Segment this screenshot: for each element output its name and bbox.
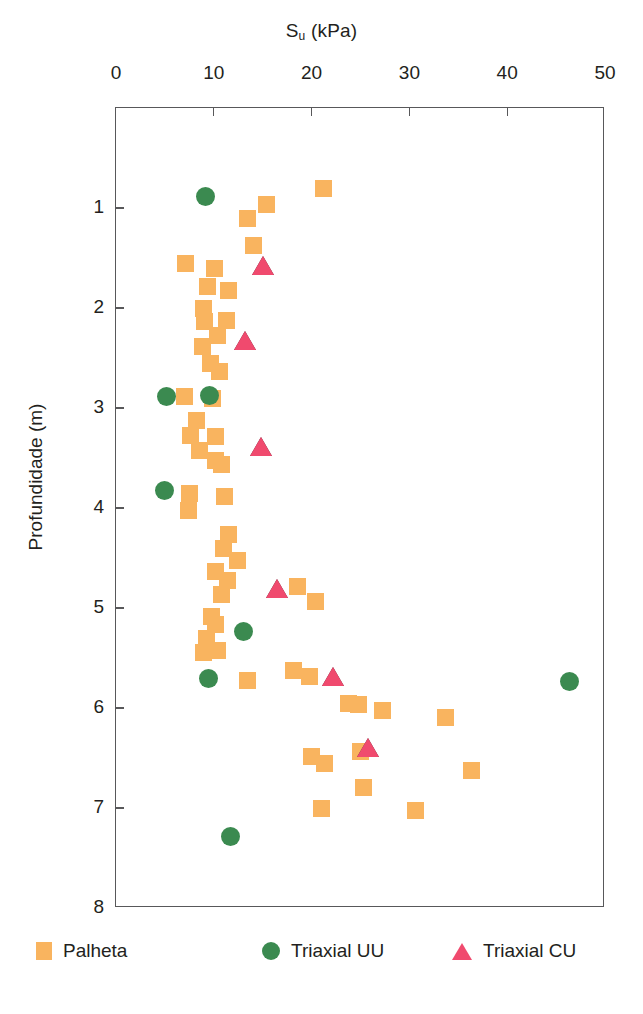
data-point <box>200 386 219 405</box>
data-point <box>301 668 318 685</box>
data-point <box>350 696 367 713</box>
legend-label-palheta: Palheta <box>63 940 127 962</box>
data-point <box>355 779 372 796</box>
data-point <box>322 667 344 686</box>
data-point <box>239 672 256 689</box>
data-point <box>176 388 193 405</box>
x-tick-label-10: 10 <box>184 62 244 84</box>
triangle-marker-icon <box>452 943 472 960</box>
x-tick-label-20: 20 <box>282 62 342 84</box>
data-point <box>155 481 174 500</box>
plot-frame: 01020304050 12345678 <box>115 107 604 907</box>
legend-item-palheta[interactable]: Palheta <box>36 940 127 962</box>
data-point <box>209 642 226 659</box>
data-point <box>285 662 302 679</box>
x-axis-title-base: S <box>286 20 299 41</box>
data-point <box>221 827 240 846</box>
x-tick-10 <box>213 107 214 116</box>
data-point <box>229 552 246 569</box>
data-point <box>216 488 233 505</box>
data-point <box>437 709 454 726</box>
data-point <box>239 210 256 227</box>
square-marker-icon <box>36 942 52 960</box>
y-tick-label-3: 3 <box>64 396 104 418</box>
data-point <box>199 278 216 295</box>
x-tick-20 <box>311 107 312 116</box>
plot-area <box>116 108 603 906</box>
y-tick-3 <box>115 407 124 408</box>
x-tick-40 <box>507 107 508 116</box>
legend-item-triaxial-cu[interactable]: Triaxial CU <box>452 940 576 962</box>
data-point <box>307 593 324 610</box>
y-tick-label-6: 6 <box>64 696 104 718</box>
scatter-chart-figure: Su (kPa) Profundidade (m) 01020304050 12… <box>0 0 643 1014</box>
data-point <box>289 578 306 595</box>
data-point <box>252 256 274 275</box>
y-tick-label-8: 8 <box>64 896 104 918</box>
data-point <box>245 237 262 254</box>
legend-item-triaxial-uu[interactable]: Triaxial UU <box>262 940 384 962</box>
data-point <box>213 456 230 473</box>
data-point <box>209 327 226 344</box>
data-point <box>316 755 333 772</box>
data-point <box>258 196 275 213</box>
data-point <box>250 437 272 456</box>
data-point <box>315 180 332 197</box>
data-point <box>194 338 211 355</box>
data-point <box>407 802 424 819</box>
data-point <box>266 579 288 598</box>
data-point <box>180 502 197 519</box>
x-tick-label-50: 50 <box>575 62 635 84</box>
y-tick-label-1: 1 <box>64 196 104 218</box>
data-point <box>374 702 391 719</box>
y-tick-label-2: 2 <box>64 296 104 318</box>
data-point <box>211 363 228 380</box>
x-tick-label-30: 30 <box>379 62 439 84</box>
y-tick-5 <box>115 607 124 608</box>
x-axis-title-unit: (kPa) <box>305 20 357 41</box>
data-point <box>191 442 208 459</box>
data-point <box>177 255 194 272</box>
x-axis-title: Su (kPa) <box>0 20 643 43</box>
y-tick-2 <box>115 307 124 308</box>
y-tick-7 <box>115 807 124 808</box>
x-tick-label-40: 40 <box>477 62 537 84</box>
data-point <box>220 282 237 299</box>
y-axis-title: Profundidade (m) <box>25 347 47 607</box>
legend-label-triaxial-cu: Triaxial CU <box>483 940 576 962</box>
x-tick-label-0: 0 <box>86 62 146 84</box>
data-point <box>207 428 224 445</box>
legend-label-triaxial-uu: Triaxial UU <box>291 940 384 962</box>
y-tick-label-4: 4 <box>64 496 104 518</box>
data-point <box>181 485 198 502</box>
data-point <box>357 738 379 757</box>
data-point <box>213 586 230 603</box>
y-tick-label-7: 7 <box>64 796 104 818</box>
data-point <box>206 260 223 277</box>
data-point <box>234 622 253 641</box>
y-tick-1 <box>115 207 124 208</box>
chart-legend: Palheta Triaxial UU Triaxial CU <box>0 940 643 980</box>
y-tick-4 <box>115 507 124 508</box>
x-tick-30 <box>409 107 410 116</box>
y-tick-6 <box>115 707 124 708</box>
data-point <box>199 669 218 688</box>
y-tick-label-5: 5 <box>64 596 104 618</box>
data-point <box>196 187 215 206</box>
data-point <box>313 800 330 817</box>
data-point <box>463 762 480 779</box>
data-point <box>234 331 256 350</box>
data-point <box>560 672 579 691</box>
circle-marker-icon <box>262 942 280 960</box>
data-point <box>157 387 176 406</box>
